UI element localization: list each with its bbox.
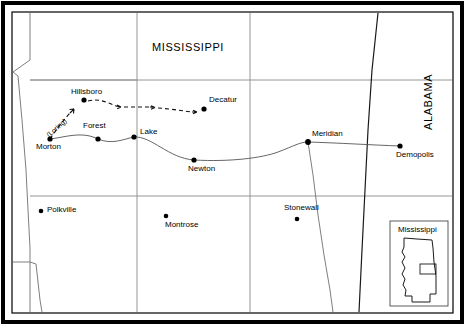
city-label-polkville: Polkville: [47, 206, 76, 214]
city-label-demopolis: Demopolis: [396, 151, 434, 159]
city-dot-polkville: [39, 209, 44, 214]
city-dot-hillsboro: [81, 97, 86, 102]
city-label-decatur: Decatur: [209, 96, 237, 104]
state-label-mississippi: MISSISSIPPI: [152, 42, 224, 53]
city-label-hillsboro: Hillsboro: [71, 88, 102, 96]
city-label-morton: Morton: [36, 143, 61, 151]
city-label-stonewall: Stonewall: [284, 204, 319, 212]
city-dot-demopolis: [397, 143, 402, 148]
city-label-montrose: Montrose: [165, 221, 198, 229]
city-dot-forest: [95, 136, 100, 141]
city-dot-meridian: [305, 139, 311, 145]
city-label-forest: Forest: [83, 122, 106, 130]
city-label-lake: Lake: [140, 128, 157, 136]
map-figure: MISSISSIPPI ALABAMA (Loring) Hillsboro D…: [0, 0, 465, 325]
inset-title-label: Mississippi: [398, 226, 437, 234]
city-dot-lake: [131, 134, 136, 139]
city-dot-decatur: [201, 106, 206, 111]
city-dot-stonewall: [295, 217, 300, 222]
city-label-newton: Newton: [188, 165, 215, 173]
city-label-meridian: Meridian: [312, 130, 343, 138]
map-canvas: [0, 0, 465, 325]
inset-state-outline: [402, 238, 436, 302]
city-dot-newton: [191, 157, 196, 162]
state-label-alabama: ALABAMA: [423, 74, 434, 130]
city-dot-montrose: [164, 214, 169, 219]
